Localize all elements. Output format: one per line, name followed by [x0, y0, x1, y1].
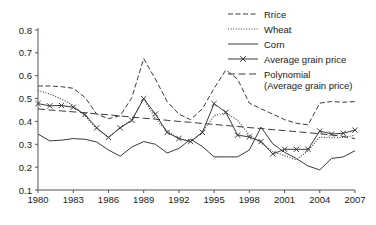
- data-point-marker: [129, 118, 134, 123]
- x-axis-tick-label: 1989: [133, 194, 154, 205]
- legend-item-2[interactable]: Corn: [228, 39, 285, 50]
- legend-label-1: Wheat: [264, 24, 292, 35]
- data-point-marker: [94, 125, 99, 130]
- x-axis-tick-label: 1992: [168, 194, 189, 205]
- legend-item-0[interactable]: Rrice: [228, 9, 286, 20]
- y-axis-tick-label: 0.5: [19, 93, 32, 104]
- y-axis-tick-label: 0.2: [19, 162, 32, 173]
- data-point-marker: [118, 125, 123, 130]
- y-axis-tick-label: 0.3: [19, 139, 32, 150]
- chart-canvas: 0.10.20.30.40.50.60.70.81980198319861989…: [0, 0, 376, 225]
- y-axis-tick-label: 0.8: [19, 25, 32, 36]
- legend-label-4: Polynomial: [264, 69, 310, 80]
- x-axis-tick-label: 1995: [204, 194, 225, 205]
- y-axis-tick-label: 0.7: [19, 47, 32, 58]
- x-axis-tick-label: 1986: [98, 194, 119, 205]
- x-axis-tick-label: 1983: [63, 194, 84, 205]
- legend-item-4[interactable]: Polynomial(Average grain price): [228, 69, 353, 91]
- data-point-marker: [141, 96, 146, 101]
- data-point-marker: [223, 110, 228, 115]
- x-axis-tick-label: 2001: [274, 194, 295, 205]
- legend-label-3: Average grain price: [264, 54, 346, 65]
- y-axis-tick-label: 0.6: [19, 70, 32, 81]
- data-point-marker: [258, 139, 263, 144]
- x-axis-tick-label: 1980: [27, 194, 48, 205]
- y-axis-tick-label: 0.4: [19, 116, 32, 127]
- data-point-marker: [212, 101, 217, 106]
- legend-label-0: Rrice: [264, 9, 286, 20]
- data-point-marker: [200, 130, 205, 135]
- series-line-3: [38, 99, 355, 154]
- grain-price-chart: 0.10.20.30.40.50.60.70.81980198319861989…: [0, 0, 376, 225]
- data-point-marker: [106, 135, 111, 140]
- legend-label-2: Corn: [264, 39, 285, 50]
- legend-item-1[interactable]: Wheat: [228, 24, 292, 35]
- legend-label-secondary-4: (Average grain price): [264, 80, 353, 91]
- legend-item-3[interactable]: Average grain price: [228, 54, 346, 65]
- x-axis-tick-label: 2004: [309, 194, 330, 205]
- x-axis-tick-label: 2007: [344, 194, 365, 205]
- x-axis-tick-label: 1998: [239, 194, 260, 205]
- data-point-marker: [153, 112, 158, 117]
- series-markers-3: [35, 96, 357, 157]
